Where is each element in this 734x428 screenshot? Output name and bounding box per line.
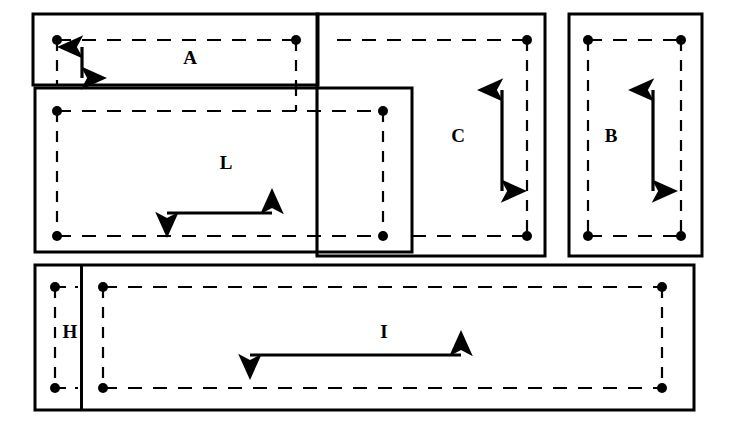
diagram-canvas: A L C B H I — [0, 0, 734, 428]
node-dot — [52, 35, 62, 45]
node-dot — [98, 383, 108, 393]
node-dot — [657, 282, 667, 292]
node-dot — [52, 106, 62, 116]
dimension-label-b: B — [605, 125, 618, 146]
dimension-label-i: I — [380, 321, 387, 342]
node-dot — [522, 231, 532, 241]
node-dot — [50, 282, 60, 292]
dimension-label-a: A — [183, 47, 197, 68]
node-dot — [583, 231, 593, 241]
node-dot — [583, 35, 593, 45]
node-dot — [676, 231, 686, 241]
node-dot — [50, 383, 60, 393]
node-dot — [522, 35, 532, 45]
node-dot — [378, 106, 388, 116]
region-c-box — [317, 14, 545, 256]
node-dot — [378, 231, 388, 241]
node-dot — [657, 383, 667, 393]
region-a-box — [33, 14, 318, 85]
dimension-diagram: A L C B H I — [0, 0, 734, 428]
dimension-label-c: C — [451, 125, 465, 146]
node-dot — [676, 35, 686, 45]
node-dot — [291, 35, 301, 45]
dimension-label-l: L — [220, 152, 233, 173]
dimension-label-h: H — [63, 321, 78, 342]
node-dot — [98, 282, 108, 292]
node-dot — [52, 231, 62, 241]
